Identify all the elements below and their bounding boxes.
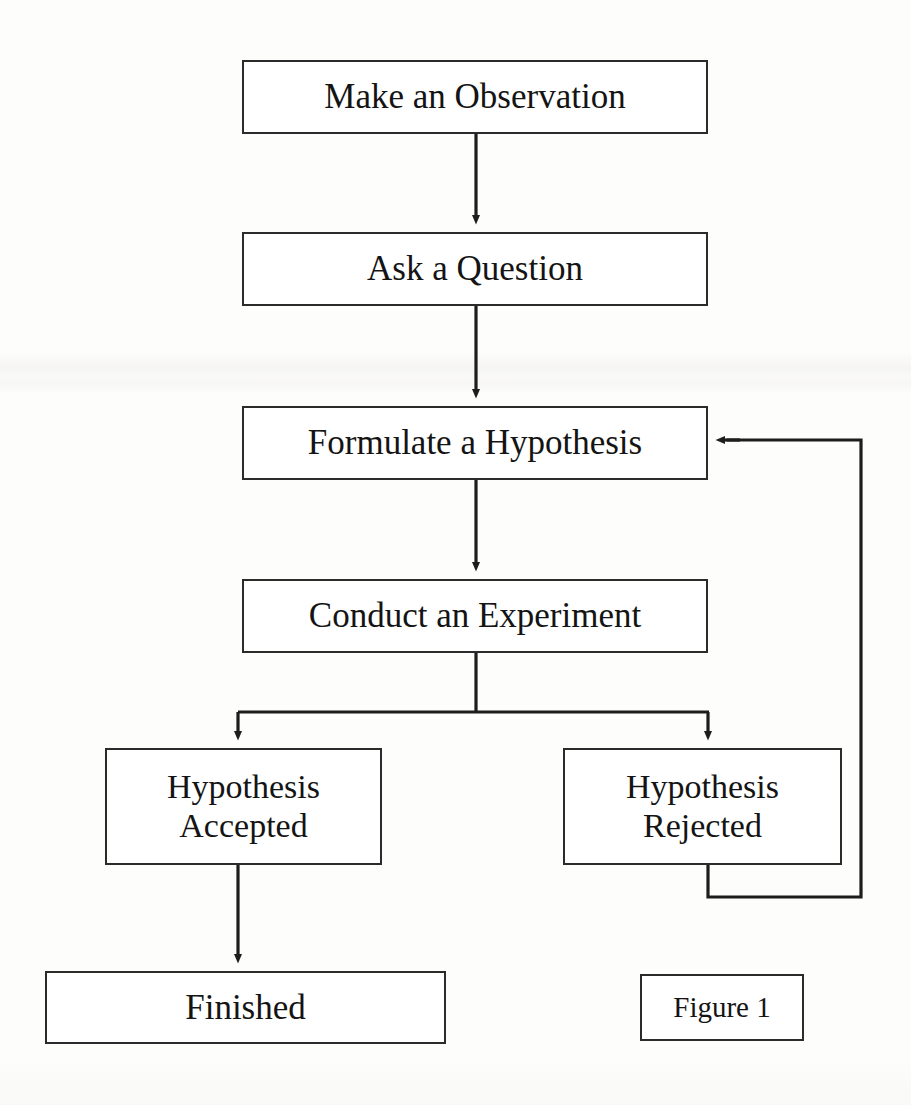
figure-caption-box: Figure 1 [640, 974, 804, 1041]
figure-caption-label: Figure 1 [667, 991, 776, 1024]
node-make-an-observation: Make an Observation [242, 60, 708, 134]
node-ask-a-question: Ask a Question [242, 232, 708, 306]
node-label: Hypothesis Rejected [620, 768, 785, 846]
node-hypothesis-rejected: Hypothesis Rejected [563, 748, 842, 865]
node-conduct-an-experiment: Conduct an Experiment [242, 579, 708, 653]
node-label: Hypothesis Accepted [161, 768, 326, 846]
flowchart-figure: Make an Observation Ask a Question Formu… [0, 0, 911, 1105]
node-hypothesis-accepted: Hypothesis Accepted [105, 748, 382, 865]
node-finished: Finished [45, 971, 446, 1044]
flowchart-connectors [0, 0, 911, 1105]
node-formulate-a-hypothesis: Formulate a Hypothesis [242, 406, 708, 480]
node-label: Formulate a Hypothesis [302, 423, 648, 463]
node-label: Make an Observation [318, 77, 631, 117]
node-label: Ask a Question [361, 249, 589, 289]
node-label: Conduct an Experiment [303, 596, 647, 636]
node-label: Finished [179, 988, 312, 1028]
